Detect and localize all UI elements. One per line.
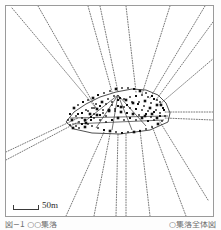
building-point [129,107,131,109]
building-point [147,96,149,98]
building-point [121,132,123,134]
building-point [156,99,158,101]
caption-left-text: 図−1 ○○集落 [5,221,57,230]
building-point [114,108,116,110]
building-point [145,128,147,130]
building-point [96,114,99,117]
building-point [69,113,71,115]
building-point [101,101,104,104]
scale-bar: 50m [13,201,58,210]
building-point [155,109,157,111]
building-point [119,97,121,99]
building-point [107,98,109,100]
building-point [87,99,89,101]
building-point [95,103,97,105]
building-point [84,119,87,122]
scale-bar-rule [13,205,39,210]
road-line [66,132,104,216]
building-point [89,113,92,116]
building-point [157,123,160,126]
building-point [149,107,152,110]
building-point [160,104,163,107]
building-point [145,92,147,94]
building-point [111,101,113,103]
building-point [92,97,95,100]
building-point [87,110,89,112]
road-line [142,6,170,94]
building-point [120,111,123,114]
building-point [151,113,154,116]
building-point [109,130,112,133]
building-point [97,127,99,129]
building-point [162,107,164,109]
building-point [99,119,101,121]
building-point [159,101,161,103]
building-point [90,119,92,121]
road-line [6,122,78,160]
building-point [91,107,93,109]
figure-caption: 図−1 ○○集落 ○集落全体図 [5,221,216,230]
building-point [123,119,125,121]
building-point [126,112,128,114]
building-point [139,130,141,132]
building-point [135,119,137,121]
road-line [160,122,208,200]
building-point [115,88,118,91]
building-point [141,109,143,111]
building-point [85,122,88,125]
road-line [160,58,214,104]
building-point [151,95,153,97]
building-point [117,99,119,101]
building-point [120,106,123,109]
building-point [99,105,101,107]
building-point [129,117,131,119]
building-point [123,106,125,108]
building-point [113,95,115,97]
building-point [156,104,159,107]
building-point [81,112,83,114]
building-point [164,115,166,117]
road-line [12,8,96,108]
road-line [38,6,96,108]
map-canvas [0,0,221,230]
building-point [77,104,79,106]
building-point [135,108,137,110]
building-point [153,98,155,100]
building-point [150,116,152,118]
building-point [109,90,111,92]
building-point [108,109,111,112]
road-line [88,6,112,92]
building-point [71,119,74,122]
building-point [141,117,144,120]
road-line [116,134,118,216]
caption-right-text: ○集落全体図 [169,221,216,230]
road-line [94,134,110,216]
building-point [102,112,104,114]
building-point [147,110,149,112]
building-point [144,100,147,103]
building-point [105,115,107,117]
building-point [141,94,143,96]
building-point [126,104,128,106]
building-point [111,119,113,121]
road-line [152,126,186,216]
road-line [150,6,205,98]
building-point [138,114,140,116]
building-point [156,117,159,120]
building-point [90,116,92,118]
building-point [78,127,80,129]
road-line [164,118,213,120]
building-point [78,121,80,123]
building-point [81,117,83,119]
building-point [75,125,77,127]
scale-bar-label: 50m [42,201,58,210]
building-point [85,109,87,111]
building-point [139,90,142,93]
building-point [82,101,84,103]
building-point [121,87,123,89]
building-point [159,115,161,117]
building-point [131,101,133,103]
building-point [77,113,79,115]
road-line [100,6,118,92]
building-point [102,109,104,111]
